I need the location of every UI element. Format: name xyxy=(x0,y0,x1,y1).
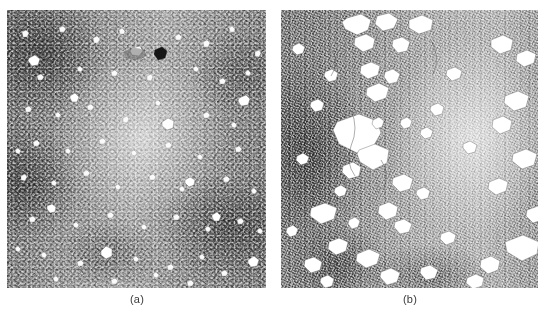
panel-a-dark-inclusion xyxy=(154,47,167,60)
micrograph-panel-b xyxy=(281,10,538,288)
panel-a-particle-overlay xyxy=(7,10,266,288)
panel-b-caption: (b) xyxy=(380,292,440,306)
micrograph-panel-a xyxy=(7,10,266,288)
figure-root: (a) (b) xyxy=(0,0,545,321)
panel-a-caption: (a) xyxy=(107,292,167,306)
panel-b-void-overlay xyxy=(281,10,538,288)
